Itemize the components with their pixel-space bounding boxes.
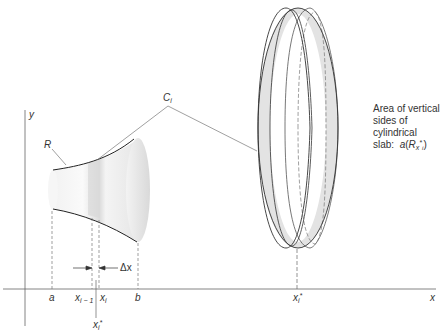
- label-x-i: xi: [100, 293, 107, 303]
- cylinder-label: Ci: [163, 93, 172, 103]
- formula-close: ): [423, 139, 426, 150]
- leader-R: [52, 149, 66, 165]
- x-star-ring-superscript: *: [300, 292, 303, 299]
- axes: [3, 110, 436, 326]
- caption-line-3: slab: a(Rx*i): [373, 139, 443, 152]
- x-i-subscript: i: [105, 297, 107, 304]
- delta-x-arrows: [73, 266, 118, 270]
- delta-x-label: Δx: [120, 263, 132, 273]
- label-x-star: xi*: [93, 320, 102, 330]
- cylinder-subscript: i: [170, 97, 172, 104]
- diagram-canvas: [0, 0, 443, 335]
- y-axis-label: y: [29, 110, 34, 120]
- label-x-prev: xi − 1: [75, 293, 93, 303]
- caption-line-2: sides of cylindrical: [373, 115, 443, 139]
- label-x-star-ring: xi*: [293, 293, 302, 303]
- x-prev-subscript: i − 1: [80, 297, 93, 304]
- formula-R: R: [409, 139, 416, 150]
- x-star-superscript: *: [100, 319, 103, 326]
- leader-lines: [52, 106, 257, 165]
- cylindrical-shell: [258, 8, 338, 248]
- x-axis-label: x: [430, 293, 435, 303]
- region-label: R: [44, 140, 51, 150]
- label-a: a: [49, 293, 55, 303]
- caption-line-1: Area of vertical: [373, 103, 443, 115]
- area-caption: Area of vertical sides of cylindrical sl…: [373, 103, 443, 152]
- label-b: b: [135, 293, 141, 303]
- caption-prefix: slab:: [373, 139, 400, 150]
